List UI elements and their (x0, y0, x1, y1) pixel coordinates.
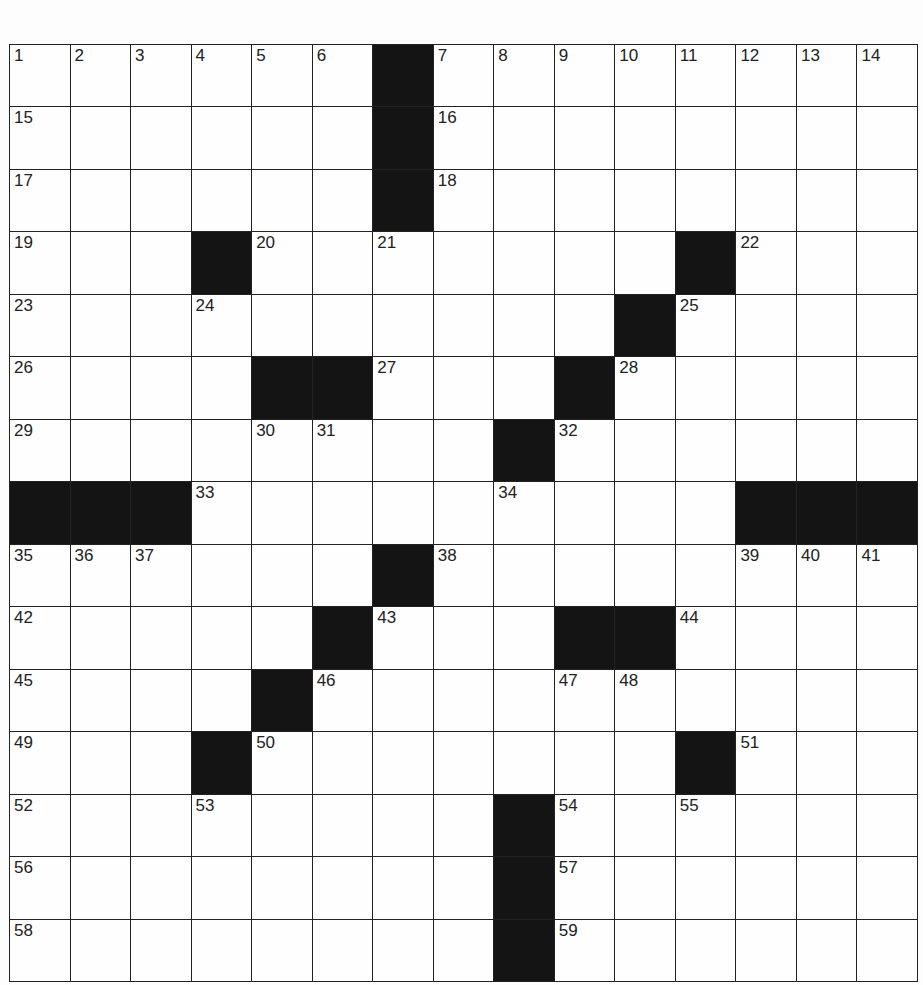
grid-cell[interactable] (373, 732, 433, 793)
grid-cell[interactable] (736, 170, 796, 231)
grid-cell[interactable]: 28 (615, 357, 675, 418)
grid-cell[interactable] (434, 420, 494, 481)
grid-cell[interactable] (615, 795, 675, 856)
grid-cell[interactable] (373, 670, 433, 731)
grid-cell[interactable] (373, 295, 433, 356)
grid-cell[interactable]: 33 (192, 482, 252, 543)
grid-cell[interactable] (192, 670, 252, 731)
grid-cell[interactable]: 1 (10, 45, 70, 106)
grid-cell[interactable] (736, 607, 796, 668)
grid-cell[interactable] (252, 482, 312, 543)
grid-cell[interactable] (131, 170, 191, 231)
grid-cell[interactable] (313, 295, 373, 356)
grid-cell[interactable] (131, 107, 191, 168)
grid-cell[interactable] (313, 170, 373, 231)
grid-cell[interactable] (555, 732, 615, 793)
grid-cell[interactable] (192, 107, 252, 168)
grid-cell[interactable] (192, 545, 252, 606)
grid-cell[interactable] (676, 920, 736, 981)
grid-cell[interactable] (676, 420, 736, 481)
grid-cell[interactable] (615, 170, 675, 231)
grid-cell[interactable] (494, 170, 554, 231)
grid-cell[interactable]: 8 (494, 45, 554, 106)
grid-cell[interactable] (736, 857, 796, 918)
grid-cell[interactable] (71, 107, 131, 168)
grid-cell[interactable] (494, 607, 554, 668)
grid-cell[interactable] (131, 420, 191, 481)
grid-cell[interactable] (252, 170, 312, 231)
grid-cell[interactable]: 56 (10, 857, 70, 918)
grid-cell[interactable] (797, 795, 857, 856)
grid-cell[interactable] (71, 795, 131, 856)
grid-cell[interactable]: 57 (555, 857, 615, 918)
grid-cell[interactable] (494, 232, 554, 293)
grid-cell[interactable] (71, 357, 131, 418)
grid-cell[interactable] (434, 357, 494, 418)
grid-cell[interactable]: 34 (494, 482, 554, 543)
grid-cell[interactable] (857, 670, 917, 731)
grid-cell[interactable] (373, 857, 433, 918)
grid-cell[interactable] (434, 607, 494, 668)
grid-cell[interactable] (797, 107, 857, 168)
grid-cell[interactable]: 50 (252, 732, 312, 793)
grid-cell[interactable] (615, 732, 675, 793)
grid-cell[interactable]: 18 (434, 170, 494, 231)
grid-cell[interactable] (131, 357, 191, 418)
grid-cell[interactable] (797, 920, 857, 981)
grid-cell[interactable] (615, 920, 675, 981)
grid-cell[interactable] (131, 920, 191, 981)
grid-cell[interactable] (857, 107, 917, 168)
grid-cell[interactable] (857, 607, 917, 668)
grid-cell[interactable]: 26 (10, 357, 70, 418)
grid-cell[interactable]: 17 (10, 170, 70, 231)
grid-cell[interactable]: 23 (10, 295, 70, 356)
grid-cell[interactable]: 55 (676, 795, 736, 856)
grid-cell[interactable] (555, 170, 615, 231)
grid-cell[interactable] (252, 857, 312, 918)
grid-cell[interactable] (555, 545, 615, 606)
grid-cell[interactable] (434, 232, 494, 293)
grid-cell[interactable]: 20 (252, 232, 312, 293)
grid-cell[interactable] (252, 920, 312, 981)
grid-cell[interactable] (797, 170, 857, 231)
grid-cell[interactable] (373, 920, 433, 981)
grid-cell[interactable]: 16 (434, 107, 494, 168)
grid-cell[interactable]: 27 (373, 357, 433, 418)
grid-cell[interactable]: 32 (555, 420, 615, 481)
grid-cell[interactable] (555, 107, 615, 168)
grid-cell[interactable]: 39 (736, 545, 796, 606)
grid-cell[interactable] (434, 670, 494, 731)
grid-cell[interactable] (373, 420, 433, 481)
grid-cell[interactable]: 19 (10, 232, 70, 293)
grid-cell[interactable] (313, 920, 373, 981)
grid-cell[interactable]: 45 (10, 670, 70, 731)
grid-cell[interactable] (71, 857, 131, 918)
grid-cell[interactable] (676, 357, 736, 418)
grid-cell[interactable]: 59 (555, 920, 615, 981)
grid-cell[interactable]: 22 (736, 232, 796, 293)
grid-cell[interactable]: 7 (434, 45, 494, 106)
grid-cell[interactable]: 11 (676, 45, 736, 106)
grid-cell[interactable] (676, 857, 736, 918)
grid-cell[interactable] (736, 357, 796, 418)
grid-cell[interactable]: 48 (615, 670, 675, 731)
grid-cell[interactable]: 15 (10, 107, 70, 168)
grid-cell[interactable] (131, 732, 191, 793)
grid-cell[interactable]: 35 (10, 545, 70, 606)
grid-cell[interactable] (434, 295, 494, 356)
grid-cell[interactable]: 29 (10, 420, 70, 481)
grid-cell[interactable] (434, 795, 494, 856)
grid-cell[interactable] (373, 482, 433, 543)
grid-cell[interactable] (676, 545, 736, 606)
grid-cell[interactable]: 12 (736, 45, 796, 106)
grid-cell[interactable]: 52 (10, 795, 70, 856)
grid-cell[interactable] (736, 420, 796, 481)
grid-cell[interactable] (131, 607, 191, 668)
grid-cell[interactable] (857, 857, 917, 918)
grid-cell[interactable] (71, 920, 131, 981)
grid-cell[interactable]: 13 (797, 45, 857, 106)
grid-cell[interactable] (434, 482, 494, 543)
grid-cell[interactable] (676, 170, 736, 231)
grid-cell[interactable] (71, 732, 131, 793)
grid-cell[interactable] (71, 170, 131, 231)
